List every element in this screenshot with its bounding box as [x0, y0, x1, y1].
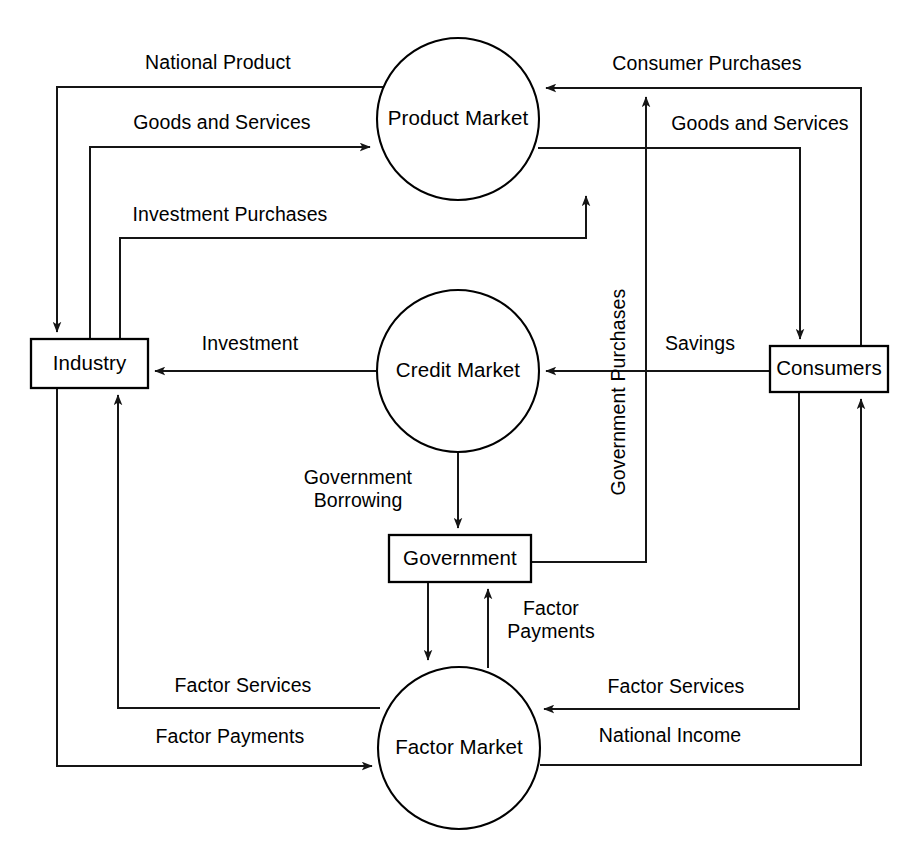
node-label-industry: Industry	[53, 351, 127, 374]
node-credit_market[interactable]: Credit Market	[377, 290, 539, 452]
edge-label-national_income: National Income	[599, 724, 741, 746]
edge-label-government_purchases: Government Purchases	[607, 288, 629, 495]
node-government[interactable]: Government	[389, 535, 531, 582]
edge-label-line-2: Borrowing	[314, 489, 403, 511]
edge-label-line-1: Government	[304, 466, 413, 488]
edge-label-national_product: National Product	[145, 51, 291, 73]
flow-edge-factor_services_consumers	[544, 392, 799, 709]
circular-flow-diagram: Product MarketCredit MarketFactor Market…	[0, 0, 920, 854]
node-product_market[interactable]: Product Market	[377, 38, 539, 200]
node-factor_market[interactable]: Factor Market	[378, 667, 540, 829]
edge-label-factor_services_industry: Factor Services	[175, 674, 312, 696]
edge-label-line-1: Factor	[523, 597, 579, 619]
node-label-credit_market: Credit Market	[396, 358, 521, 381]
node-consumers[interactable]: Consumers	[770, 346, 888, 392]
flow-edge-goods_services_industry	[90, 147, 370, 339]
flow-edge-national_income	[540, 399, 861, 765]
edge-label-line-2: Payments	[507, 620, 595, 642]
edge-label-goods_services_consumers: Goods and Services	[671, 112, 849, 134]
flow-edge-factor_services_industry	[118, 395, 380, 708]
node-label-government: Government	[403, 546, 517, 569]
node-layer: Product MarketCredit MarketFactor Market…	[31, 38, 888, 829]
edge-label-consumer_purchases: Consumer Purchases	[612, 52, 801, 74]
edge-label-investment_purchases: Investment Purchases	[133, 203, 328, 225]
diagram-canvas: Product MarketCredit MarketFactor Market…	[0, 0, 920, 854]
edge-label-savings: Savings	[665, 332, 735, 354]
edge-label-government_borrowing: GovernmentBorrowing	[304, 466, 413, 511]
node-label-factor_market: Factor Market	[395, 735, 523, 758]
node-label-product_market: Product Market	[388, 106, 529, 129]
edge-label-goods_services_industry: Goods and Services	[133, 111, 311, 133]
edge-label-factor_services_consumers: Factor Services	[608, 675, 745, 697]
flow-edge-factor_payments_industry	[57, 388, 372, 766]
edge-label-factor_payments_government: FactorPayments	[507, 597, 595, 642]
node-industry[interactable]: Industry	[31, 339, 148, 388]
edge-label-investment: Investment	[202, 332, 299, 354]
edge-label-factor_payments_industry: Factor Payments	[156, 725, 305, 747]
flow-edge-goods_services_consumers	[538, 148, 800, 339]
node-label-consumers: Consumers	[776, 356, 882, 379]
